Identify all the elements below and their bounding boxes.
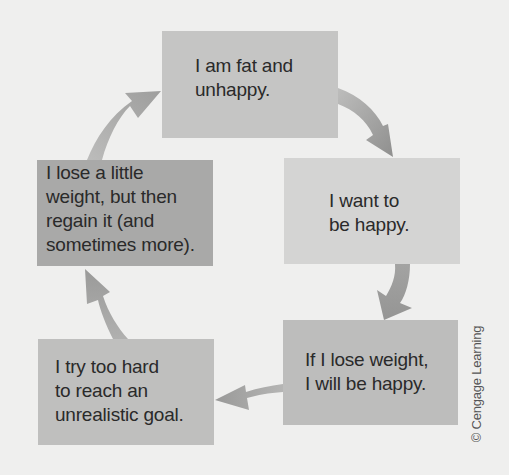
arrow-top-to-right (338, 88, 393, 157)
cycle-node-want-happy: I want to be happy. (284, 158, 460, 264)
weight-cycle-diagram: I am fat and unhappy. I want to be happy… (0, 0, 509, 475)
cycle-node-regain-weight: I lose a little weight, but then regain … (37, 160, 213, 266)
node-text: If I lose weight, I will be happy. (305, 348, 428, 396)
node-text: I want to be happy. (329, 189, 409, 237)
arrow-left-to-top (87, 91, 161, 160)
node-text: I am fat and unhappy. (195, 54, 293, 102)
cycle-node-unrealistic-goal: I try too hard to reach an unrealistic g… (38, 339, 214, 445)
node-text: I lose a little weight, but then regain … (46, 161, 195, 257)
arrow-right-to-bottomright (377, 264, 412, 320)
cycle-node-lose-weight-happy: If I lose weight, I will be happy. (283, 320, 458, 425)
node-text: I try too hard to reach an unrealistic g… (55, 355, 184, 427)
arrow-bottomright-to-bottomleft (215, 384, 283, 410)
copyright-credit: © Cengage Learning (469, 326, 484, 443)
arrow-bottomleft-to-left (85, 269, 128, 339)
cycle-node-fat-unhappy: I am fat and unhappy. (162, 31, 338, 138)
